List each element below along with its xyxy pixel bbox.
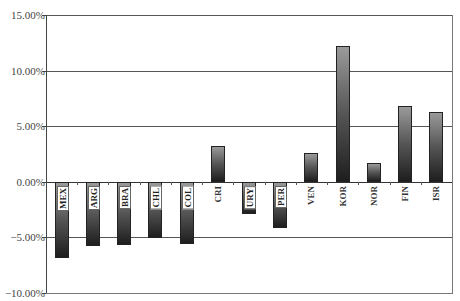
gridline [46,126,452,127]
y-tick-label: 5.00% [17,120,45,132]
category-label: MEX [57,186,69,211]
category-label: CRI [213,186,223,203]
x-tick-mark [327,182,328,185]
x-tick-mark [171,182,172,185]
y-tick-label: −5.00% [10,231,45,243]
category-label: VEN [306,186,316,205]
plot-right-border [452,15,453,293]
plot-bottom-border [46,293,453,294]
category-label: KOR [338,186,348,207]
y-tick-label: 10.00% [11,65,45,77]
gridline [46,15,452,16]
category-label: URY [244,186,256,209]
bar-chart: 15.00%10.00%5.00%0.00%−5.00%−10.00% MEXA… [0,0,460,301]
category-label: CHL [150,186,162,210]
x-tick-mark [421,182,422,185]
bar-nor [367,163,381,182]
category-label: ISR [431,186,441,201]
gridline [46,237,452,238]
category-label: BRA [119,186,131,209]
x-tick-mark [233,182,234,185]
x-tick-mark [108,182,109,185]
x-tick-mark [202,182,203,185]
category-label: ARG [88,186,100,210]
bar-ven [304,153,318,182]
bar-fin [398,106,412,182]
y-tick-label: −10.00% [5,287,45,299]
x-tick-mark [358,182,359,185]
y-tick-label: 0.00% [17,176,45,188]
category-label: COL [182,186,194,210]
x-tick-mark [77,182,78,185]
x-tick-mark [140,182,141,185]
x-tick-mark [390,182,391,185]
bar-isr [429,112,443,182]
gridline [46,71,452,72]
x-tick-mark [296,182,297,185]
y-axis-line [46,15,47,293]
x-tick-mark [265,182,266,185]
category-label: NOR [369,186,379,206]
y-tick-label: 15.00% [11,9,45,21]
bar-cri [211,146,225,182]
category-label: PER [275,186,287,208]
category-label: FIN [400,186,410,202]
bar-kor [336,46,350,182]
